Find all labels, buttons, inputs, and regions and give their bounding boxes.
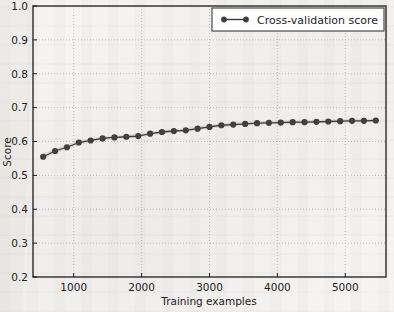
data-point-marker: [301, 119, 307, 125]
data-point-marker: [206, 124, 212, 130]
legend-marker-icon: [221, 17, 227, 23]
data-point-marker: [135, 133, 141, 139]
data-point-marker: [325, 118, 331, 124]
data-point-marker: [40, 154, 46, 160]
x-tick-label: 1000: [60, 281, 87, 293]
data-point-marker: [64, 144, 70, 150]
chart-legend[interactable]: Cross-validation score: [212, 8, 384, 31]
data-point-marker: [159, 129, 165, 135]
data-point-marker: [313, 119, 319, 125]
legend-entry-label: Cross-validation score: [257, 14, 378, 27]
data-point-marker: [99, 135, 105, 141]
y-tick-label: 0.5: [11, 169, 28, 181]
chart-canvas: 0.20.30.40.50.60.70.80.91.0 100020003000…: [0, 0, 394, 312]
x-tick-label: 5000: [332, 281, 359, 293]
data-point-marker: [242, 121, 248, 127]
data-point-marker: [195, 126, 201, 132]
data-point-marker: [254, 120, 260, 126]
y-tick-label: 0.4: [11, 203, 28, 215]
y-tick-label: 0.3: [11, 237, 28, 249]
data-point-marker: [361, 118, 367, 124]
data-point-marker: [290, 119, 296, 125]
y-tick-label: 0.6: [11, 135, 28, 147]
data-point-marker: [76, 139, 82, 145]
data-point-marker: [147, 131, 153, 137]
y-tick-label: 0.9: [11, 34, 28, 46]
y-tick-label: 0.2: [11, 271, 28, 283]
x-axis-tick-labels: 10002000300040005000: [60, 273, 358, 293]
data-point-marker: [183, 127, 189, 133]
data-point-marker: [266, 120, 272, 126]
x-axis-title: Training examples: [160, 295, 256, 307]
data-point-marker: [337, 118, 343, 124]
legend-marker-icon: [243, 17, 249, 23]
y-axis-title: Score: [1, 137, 13, 166]
data-point-marker: [349, 118, 355, 124]
learning-curve-chart: 0.20.30.40.50.60.70.80.91.0 100020003000…: [0, 0, 394, 312]
x-tick-label: 2000: [128, 281, 155, 293]
data-point-marker: [218, 122, 224, 128]
data-point-marker: [373, 117, 379, 123]
x-tick-label: 4000: [264, 281, 291, 293]
y-tick-label: 1.0: [11, 0, 28, 12]
data-point-marker: [123, 134, 129, 140]
y-tick-label: 0.8: [11, 68, 28, 80]
y-tick-label: 0.7: [11, 101, 28, 113]
data-point-marker: [52, 148, 58, 154]
data-point-marker: [111, 134, 117, 140]
data-point-marker: [88, 137, 94, 143]
data-point-marker: [230, 121, 236, 127]
data-point-marker: [171, 128, 177, 134]
data-point-marker: [278, 119, 284, 125]
x-tick-label: 3000: [196, 281, 223, 293]
